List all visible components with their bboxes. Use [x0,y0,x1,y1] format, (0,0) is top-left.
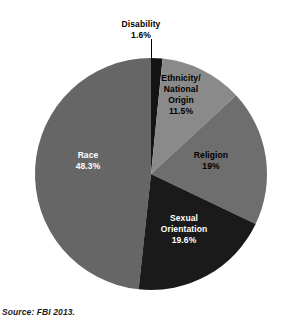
disability-callout-leader-line [151,39,152,61]
pie-label-ethnicity-name-line3: Origin [145,95,217,106]
pie-label-disability: Disability 1.6% [95,19,187,41]
pie-label-race-value: 48.3% [55,161,121,172]
pie-label-ethnicity-name-line2: National [145,84,217,95]
pie-label-sexual-orientation-name-line1: Sexual [141,213,227,224]
pie-label-sexual-orientation-name-line2: Orientation [141,224,227,235]
pie-label-religion-name: Religion [178,150,244,161]
pie-slice-race[interactable] [35,58,151,289]
pie-label-ethnicity-value: 11.5% [145,106,217,117]
pie-chart-figure: Disability 1.6% Ethnicity/ National Orig… [0,0,281,329]
source-note: Source: FBI 2013. [2,307,75,317]
pie-label-race-name: Race [55,150,121,161]
pie-label-ethnicity-name-line1: Ethnicity/ [145,73,217,84]
pie-label-race: Race 48.3% [55,150,121,172]
pie-label-sexual-orientation: Sexual Orientation 19.6% [141,213,227,246]
pie-label-religion-value: 19% [178,161,244,172]
pie-label-religion: Religion 19% [178,150,244,172]
pie-label-ethnicity: Ethnicity/ National Origin 11.5% [145,73,217,117]
pie-label-disability-value: 1.6% [95,30,187,41]
pie-label-disability-name: Disability [95,19,187,30]
pie-label-sexual-orientation-value: 19.6% [141,235,227,246]
